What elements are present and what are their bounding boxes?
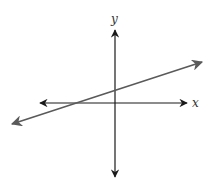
plotted-line: [12, 62, 202, 124]
coordinate-plane: y x: [0, 0, 215, 192]
x-axis-label: x: [192, 96, 199, 110]
y-axis-label: y: [110, 12, 118, 26]
